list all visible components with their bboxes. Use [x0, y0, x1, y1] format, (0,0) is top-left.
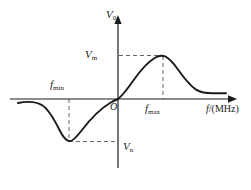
fmin-label: fmin [50, 79, 64, 90]
fmax-label: fmax [145, 103, 160, 114]
x-axis-arrowhead [228, 95, 237, 103]
vm-label: Vm [85, 49, 97, 60]
origin-label: O [110, 102, 117, 112]
y-axis-label: V0 [106, 9, 116, 20]
discriminator-curve-figure: V0 Vm Vn fmin fmax f/(MHz) O [0, 0, 251, 190]
vn-label: Vn [123, 141, 133, 152]
x-axis-label: f/(MHz) [206, 104, 239, 114]
figure-canvas [0, 0, 251, 190]
